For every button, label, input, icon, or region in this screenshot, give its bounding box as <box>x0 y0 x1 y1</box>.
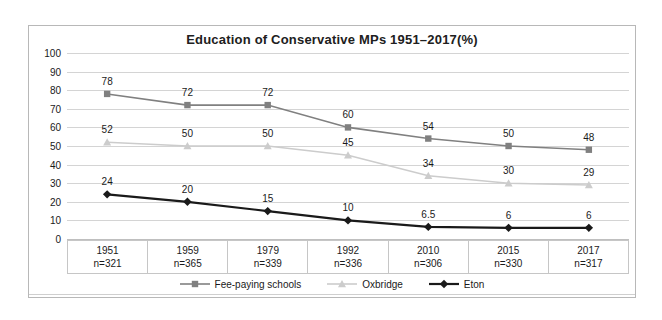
plot-area: 1009080706050403020100 78727260545048525… <box>67 53 629 239</box>
data-point-label: 30 <box>503 165 514 176</box>
data-point-marker <box>424 223 432 231</box>
x-axis-category-cell: 2017n=317 <box>549 241 628 273</box>
legend-item[interactable]: Eton <box>429 278 485 290</box>
data-point-label: 50 <box>262 128 273 139</box>
data-point-marker <box>104 91 110 97</box>
legend-item[interactable]: Oxbridge <box>327 278 403 290</box>
series-line <box>107 142 589 185</box>
data-point-label: 52 <box>102 124 113 135</box>
x-axis-sample-size-label: n=336 <box>334 257 362 271</box>
x-axis-sample-size-label: n=306 <box>414 257 442 271</box>
x-axis-category-table: 1951n=3211959n=3651979n=3391992n=3362010… <box>67 240 629 274</box>
x-axis-sample-size-label: n=317 <box>574 257 602 271</box>
data-point-label: 45 <box>342 137 353 148</box>
legend-label: Eton <box>464 279 485 290</box>
data-point-marker <box>425 135 431 141</box>
data-point-marker <box>103 190 111 198</box>
chart-title: Education of Conservative MPs 1951–2017(… <box>29 32 635 47</box>
x-axis-category-cell: 2015n=330 <box>469 241 549 273</box>
data-point-label: 60 <box>342 109 353 120</box>
data-point-marker <box>265 102 271 108</box>
legend-marker-icon <box>429 278 459 290</box>
data-point-label: 72 <box>262 87 273 98</box>
y-axis-tick-label: 20 <box>50 196 61 207</box>
data-point-marker <box>586 147 592 153</box>
x-axis-sample-size-label: n=339 <box>254 257 282 271</box>
y-axis-tick-label: 30 <box>50 178 61 189</box>
y-axis-tick-label: 60 <box>50 122 61 133</box>
y-axis-tick-label: 70 <box>50 103 61 114</box>
data-point-label: 24 <box>102 176 113 187</box>
data-point-label: 50 <box>503 128 514 139</box>
data-point-marker <box>184 102 190 108</box>
data-point-label: 15 <box>262 193 273 204</box>
x-axis-sample-size-label: n=365 <box>174 257 202 271</box>
x-axis-year-label: 1959 <box>177 244 199 258</box>
y-axis-tick-label: 10 <box>50 215 61 226</box>
data-point-label: 6 <box>586 210 592 221</box>
legend-item[interactable]: Fee-paying schools <box>180 278 302 290</box>
x-axis-year-label: 2015 <box>497 244 519 258</box>
data-point-marker <box>264 207 272 215</box>
data-point-label: 6 <box>506 210 512 221</box>
data-point-marker <box>504 224 512 232</box>
chart-frame: Education of Conservative MPs 1951–2017(… <box>28 25 636 298</box>
x-axis-year-label: 1979 <box>257 244 279 258</box>
legend-label: Fee-paying schools <box>215 279 302 290</box>
data-point-label: 20 <box>182 184 193 195</box>
legend-marker-icon <box>180 278 210 290</box>
y-axis-tick-label: 0 <box>55 234 61 245</box>
x-axis-year-label: 2017 <box>577 244 599 258</box>
x-axis-year-label: 2010 <box>417 244 439 258</box>
y-axis-tick-label: 40 <box>50 159 61 170</box>
data-point-label: 48 <box>583 132 594 143</box>
data-point-marker <box>344 216 352 224</box>
data-point-marker <box>585 224 593 232</box>
data-point-label: 50 <box>182 128 193 139</box>
data-point-label: 34 <box>423 158 434 169</box>
x-axis-category-cell: 1992n=336 <box>308 241 388 273</box>
x-axis-sample-size-label: n=321 <box>94 257 122 271</box>
x-axis-category-cell: 2010n=306 <box>389 241 469 273</box>
legend-label: Oxbridge <box>362 279 403 290</box>
data-point-label: 10 <box>342 202 353 213</box>
data-point-marker <box>183 198 191 206</box>
data-point-label: 54 <box>423 121 434 132</box>
x-axis-year-label: 1951 <box>96 244 118 258</box>
x-axis-category-cell: 1979n=339 <box>228 241 308 273</box>
x-axis-sample-size-label: n=330 <box>494 257 522 271</box>
data-point-label: 78 <box>102 76 113 87</box>
y-axis-tick-label: 90 <box>50 66 61 77</box>
data-point-label: 29 <box>583 167 594 178</box>
y-axis-tick-label: 80 <box>50 85 61 96</box>
x-axis-year-label: 1992 <box>337 244 359 258</box>
x-axis-category-cell: 1959n=365 <box>148 241 228 273</box>
y-axis-tick-label: 100 <box>44 48 61 59</box>
data-point-marker <box>345 124 351 130</box>
legend-divider <box>29 294 635 295</box>
x-axis-category-cell: 1951n=321 <box>68 241 148 273</box>
data-point-marker <box>505 143 511 149</box>
legend: Fee-paying schoolsOxbridgeEton <box>29 278 635 290</box>
data-point-label: 72 <box>182 87 193 98</box>
y-axis-tick-label: 50 <box>50 141 61 152</box>
data-point-label: 6.5 <box>421 209 435 220</box>
legend-marker-icon <box>327 278 357 290</box>
